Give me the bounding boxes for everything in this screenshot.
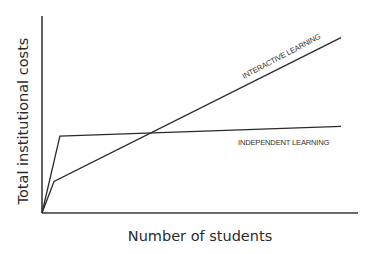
interactive-learning-label: INTERACTIVE LEARNING xyxy=(241,32,322,81)
interactive-learning-line xyxy=(42,38,341,213)
cost-chart: INTERACTIVE LEARNING INDEPENDENT LEARNIN… xyxy=(0,0,374,254)
x-axis-title: Number of students xyxy=(128,228,272,244)
independent-learning-label: INDEPENDENT LEARNING xyxy=(238,138,330,147)
y-axis-title: Total institutional costs xyxy=(15,38,31,206)
